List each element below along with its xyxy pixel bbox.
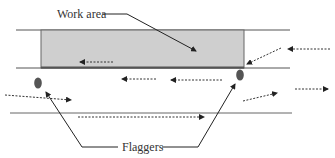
flaggers-label: Flaggers [122, 140, 164, 154]
arrow-lower-left-in [5, 95, 71, 100]
work-area-label: Work area [57, 7, 107, 21]
arrow-diagonal-into-zone [247, 48, 281, 64]
flagger-right [236, 70, 244, 81]
flagger-left [34, 78, 42, 89]
flagger-left-leader [46, 92, 118, 147]
work-area-box [41, 30, 244, 68]
flagger-right-leader [162, 84, 235, 147]
arrow-exit-diagonal [243, 93, 277, 101]
work-zone-flagger-diagram: Work area Flaggers [0, 0, 335, 158]
